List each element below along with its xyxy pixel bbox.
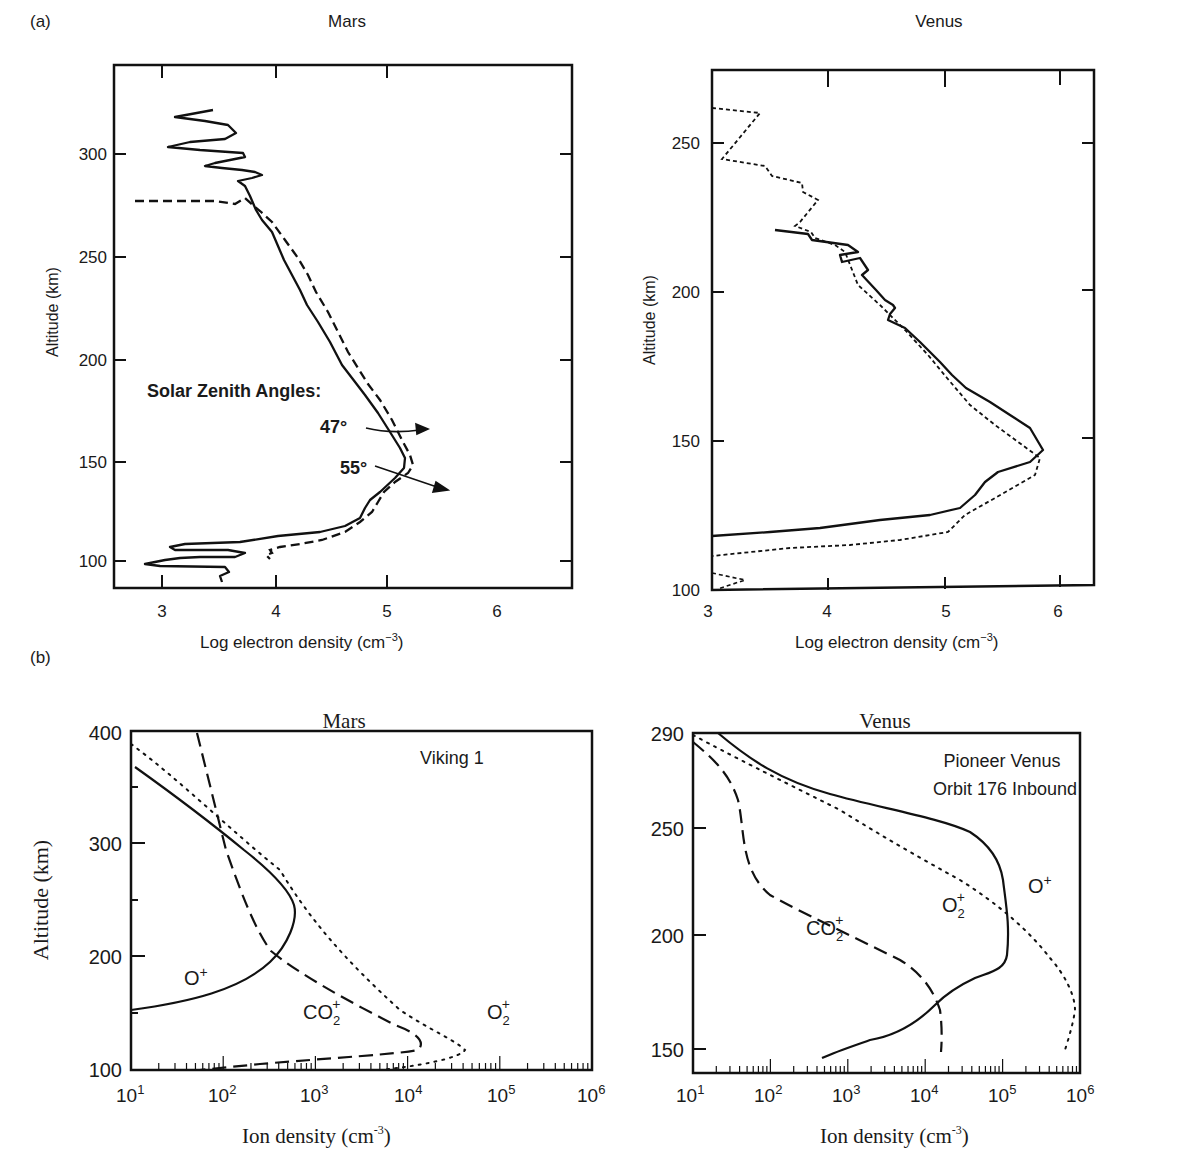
svg-text:100: 100 <box>79 552 107 571</box>
y-axis-label: Altitude (km) <box>641 275 658 365</box>
x-minor-ticks <box>693 1059 1076 1073</box>
x-tick-labels: 101 102 103 104 105 106 <box>116 1082 605 1106</box>
y-axis-label: Altitude (km) <box>44 267 61 357</box>
label-co2-plus: CO2+ <box>806 912 843 944</box>
chart-title: Venus <box>859 709 910 733</box>
spacecraft-label-line2: Orbit 176 Inbound <box>933 779 1077 799</box>
svg-text:6: 6 <box>492 602 501 621</box>
svg-text:400: 400 <box>89 722 122 744</box>
chart-title: Mars <box>328 12 366 31</box>
y-axis-label: Altitude (km) <box>28 840 53 960</box>
label-o-plus: O+ <box>184 964 208 989</box>
svg-text:150: 150 <box>672 432 700 451</box>
chart-title: Venus <box>915 12 962 31</box>
spacecraft-label-line1: Pioneer Venus <box>943 751 1060 771</box>
svg-text:105: 105 <box>487 1082 515 1106</box>
label-o2-plus: O2+ <box>487 996 510 1028</box>
series-solid <box>712 230 1043 536</box>
plot-frame <box>712 70 1094 590</box>
chart-b-mars: Mars 400 300 200 100 101 102 103 104 105… <box>28 709 605 1148</box>
svg-text:300: 300 <box>89 833 122 855</box>
svg-text:104: 104 <box>394 1082 422 1106</box>
x-tick-labels: 3 4 5 6 <box>157 602 501 621</box>
panel-b-label: (b) <box>30 648 51 667</box>
label-o2-plus: O2+ <box>942 889 965 921</box>
x-axis-label: Log electron density (cm−3) <box>795 631 998 652</box>
tick-marks <box>131 787 145 1013</box>
svg-text:101: 101 <box>676 1082 704 1106</box>
series-55deg-dashed <box>135 198 413 559</box>
svg-text:4: 4 <box>271 602 280 621</box>
svg-text:250: 250 <box>672 134 700 153</box>
svg-text:6: 6 <box>1053 602 1062 621</box>
series-o2-plus <box>131 744 465 1070</box>
svg-text:290: 290 <box>651 723 684 745</box>
label-co2-plus: CO2+ <box>303 996 340 1028</box>
annotation-55deg: 55° <box>340 458 367 478</box>
series-dashed-tail <box>712 573 745 589</box>
svg-text:103: 103 <box>300 1082 328 1106</box>
x-tick-labels: 101 102 103 104 105 106 <box>676 1082 1094 1106</box>
svg-text:150: 150 <box>79 453 107 472</box>
svg-text:300: 300 <box>79 145 107 164</box>
x-tick-labels: 3 4 5 6 <box>703 602 1062 621</box>
svg-text:200: 200 <box>89 946 122 968</box>
y-tick-labels: 250 200 150 100 <box>672 134 700 600</box>
chart-b-venus: Venus 290 250 200 150 101 102 103 104 10… <box>651 709 1095 1148</box>
svg-text:3: 3 <box>703 602 712 621</box>
chart-a-mars: Mars 300 250 200 150 100 3 4 5 6 Altitud… <box>44 12 572 652</box>
x-axis-label: Ion density (cm-3) <box>820 1123 969 1148</box>
series-dashed <box>712 108 1040 556</box>
svg-text:101: 101 <box>116 1082 144 1106</box>
svg-text:103: 103 <box>832 1082 860 1106</box>
series-co2-plus <box>693 742 942 1052</box>
chart-a-venus: Venus 250 200 150 100 3 4 5 6 Altitude (… <box>641 12 1094 652</box>
x-axis-label: Ion density (cm-3) <box>242 1123 391 1148</box>
annotation-arrows <box>366 424 448 492</box>
svg-text:104: 104 <box>910 1082 938 1106</box>
svg-text:5: 5 <box>382 602 391 621</box>
svg-text:100: 100 <box>672 581 700 600</box>
y-tick-labels: 300 250 200 150 100 <box>79 145 107 571</box>
series-47deg-solid <box>145 110 405 582</box>
x-axis-label: Log electron density (cm−3) <box>200 631 403 652</box>
panel-a-label: (a) <box>30 12 51 31</box>
svg-text:100: 100 <box>89 1059 122 1081</box>
x-minor-ticks <box>131 1056 588 1070</box>
svg-text:3: 3 <box>157 602 166 621</box>
tick-marks <box>712 70 1094 590</box>
svg-text:150: 150 <box>651 1039 684 1061</box>
annotation-47deg: 47° <box>320 417 347 437</box>
plot-frame <box>131 731 592 1070</box>
svg-text:200: 200 <box>672 283 700 302</box>
annotation-solar-zenith: Solar Zenith Angles: <box>147 381 321 401</box>
svg-text:106: 106 <box>577 1082 605 1106</box>
chart-title: Mars <box>322 709 365 733</box>
figure: (a) (b) Mars 300 250 200 150 100 3 4 5 6 <box>0 0 1201 1173</box>
svg-text:250: 250 <box>651 818 684 840</box>
spacecraft-label: Viking 1 <box>420 748 484 768</box>
label-o-plus: O+ <box>1028 872 1052 897</box>
svg-text:106: 106 <box>1066 1082 1094 1106</box>
svg-text:4: 4 <box>822 602 831 621</box>
svg-text:5: 5 <box>941 602 950 621</box>
y-tick-labels: 290 250 200 150 <box>651 723 684 1061</box>
svg-text:102: 102 <box>754 1082 782 1106</box>
series-o-plus <box>131 767 295 1010</box>
tick-marks <box>693 828 706 1049</box>
svg-text:200: 200 <box>651 925 684 947</box>
svg-text:102: 102 <box>208 1082 236 1106</box>
svg-text:200: 200 <box>79 351 107 370</box>
svg-text:105: 105 <box>988 1082 1016 1106</box>
y-tick-labels: 400 300 200 100 <box>89 722 122 1081</box>
svg-text:250: 250 <box>79 248 107 267</box>
